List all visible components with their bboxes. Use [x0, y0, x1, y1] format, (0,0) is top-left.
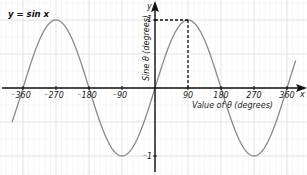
y-tick-label: ⁻1 — [143, 152, 152, 161]
x-tick-label: ⁻270 — [44, 91, 64, 100]
x-tick-label: 360 — [279, 91, 294, 100]
chart-canvas: ⁻360⁻270⁻180⁻90901802703601⁻1Value of θ … — [0, 0, 307, 175]
x-tick-label: 90 — [183, 91, 193, 100]
y-axis-title: Sine θ (degrees) — [142, 15, 151, 81]
x-tick-label: ⁻180 — [77, 91, 97, 100]
x-axis-letter: x — [299, 90, 305, 99]
chart-title: y = sin x — [8, 9, 50, 19]
x-tick-label: 270 — [246, 91, 261, 100]
x-tick-label: ⁻90 — [113, 91, 127, 100]
x-tick-label: ⁻360 — [11, 91, 31, 100]
axes — [2, 1, 307, 172]
sine-chart: ⁻360⁻270⁻180⁻90901802703601⁻1Value of θ … — [0, 0, 307, 175]
x-tick-label: 180 — [213, 91, 228, 100]
y-axis-letter: y — [146, 2, 152, 11]
x-axis-title: Value of θ (degrees) — [192, 101, 273, 110]
